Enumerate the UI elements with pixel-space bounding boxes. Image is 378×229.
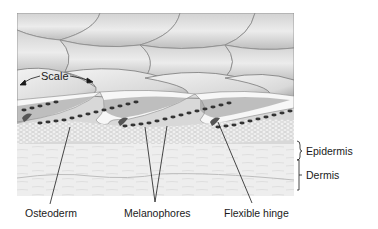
epidermis-bracket (297, 141, 302, 160)
scale-label: Scale (41, 71, 69, 82)
skin-diagram: Scale Epidermis Dermis Osteoderm Melanop… (0, 0, 378, 229)
dermis-bracket (297, 160, 302, 190)
illustration-body (17, 13, 294, 196)
osteoderm-label: Osteoderm (25, 208, 77, 219)
melanophores-label: Melanophores (124, 208, 191, 219)
layer-brackets (297, 141, 302, 190)
skin-cross-section-illustration (0, 0, 378, 229)
flexible-hinge-label: Flexible hinge (224, 208, 289, 219)
dermis-label: Dermis (306, 170, 339, 181)
epidermis-label: Epidermis (306, 146, 353, 157)
